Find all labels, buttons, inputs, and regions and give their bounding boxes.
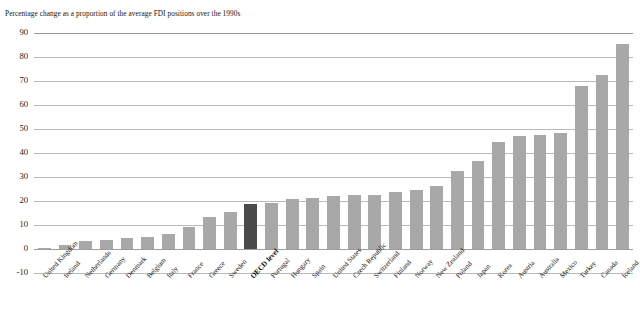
bar bbox=[183, 227, 196, 249]
bar bbox=[430, 186, 443, 249]
bar bbox=[492, 142, 505, 249]
y-tick-label: 70 bbox=[0, 76, 28, 85]
bar bbox=[348, 195, 361, 249]
bar bbox=[265, 203, 278, 249]
bar bbox=[575, 86, 588, 249]
bar bbox=[100, 240, 113, 249]
y-tick-label: 30 bbox=[0, 172, 28, 181]
bar bbox=[224, 212, 237, 249]
y-axis-labels: 9080706050403020100-10 bbox=[0, 0, 34, 326]
bar bbox=[368, 195, 381, 249]
bar bbox=[616, 44, 629, 249]
y-tick-label: 0 bbox=[0, 244, 28, 253]
y-tick-label: 80 bbox=[0, 52, 28, 61]
y-tick-label: 20 bbox=[0, 196, 28, 205]
y-tick-label: -10 bbox=[0, 268, 28, 277]
bar bbox=[513, 136, 526, 249]
y-tick-label: 50 bbox=[0, 124, 28, 133]
bar bbox=[389, 192, 402, 249]
bar bbox=[472, 161, 485, 249]
y-tick-label: 40 bbox=[0, 148, 28, 157]
bar-series bbox=[34, 33, 633, 273]
plot-area bbox=[34, 33, 633, 273]
bar bbox=[554, 133, 567, 249]
bar bbox=[79, 241, 92, 249]
bar bbox=[38, 248, 51, 249]
bar bbox=[162, 234, 175, 249]
bar bbox=[410, 190, 423, 249]
bar bbox=[596, 75, 609, 249]
bar bbox=[141, 237, 154, 249]
bar bbox=[203, 217, 216, 249]
x-axis-labels: United KingdomIrelandNetherlandsGermanyD… bbox=[34, 275, 639, 326]
bar-oecd-level bbox=[244, 204, 257, 249]
y-tick-label: 60 bbox=[0, 100, 28, 109]
bar bbox=[121, 238, 134, 249]
bar bbox=[306, 198, 319, 249]
bar bbox=[327, 196, 340, 249]
bar bbox=[534, 135, 547, 249]
chart-subtitle: Percentage change as a proportion of the… bbox=[5, 9, 240, 18]
bar bbox=[286, 199, 299, 249]
y-tick-label: 90 bbox=[0, 28, 28, 37]
bar bbox=[451, 171, 464, 249]
y-tick-label: 10 bbox=[0, 220, 28, 229]
